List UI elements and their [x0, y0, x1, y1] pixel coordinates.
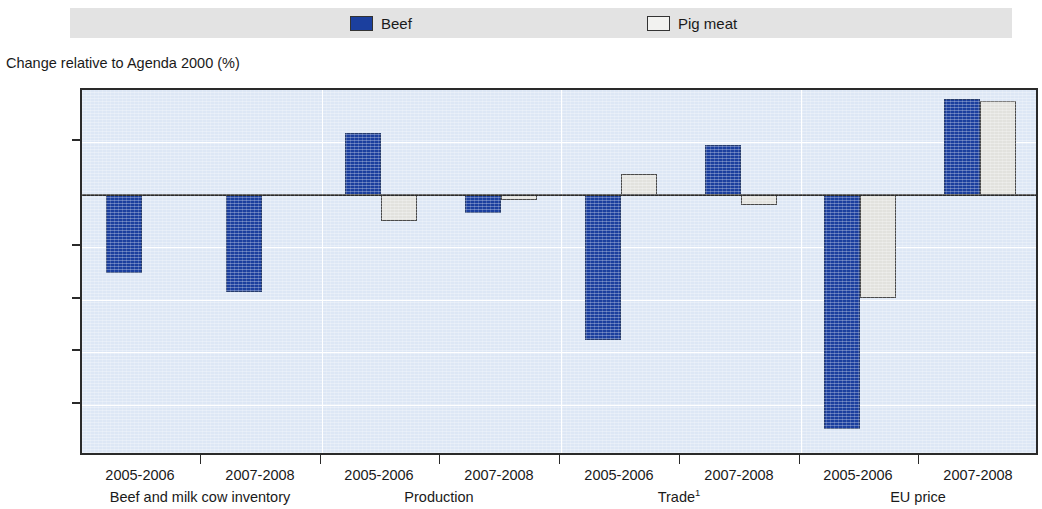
bar-beef-2007-2008-7 [944, 99, 980, 195]
bar-beef-2005-2006-4 [585, 195, 621, 340]
legend-label-pig-meat: Pig meat [678, 16, 737, 31]
x-group-label: EU price [890, 489, 946, 505]
y-tick-mark [72, 139, 81, 141]
gridline [82, 352, 1036, 353]
y-tick-mark [72, 244, 81, 246]
chart-plot-area [80, 88, 1038, 455]
legend-item-beef: Beef [350, 8, 412, 38]
x-category-label: 2007-2008 [704, 467, 773, 483]
x-category-label: 2007-2008 [943, 467, 1012, 483]
chart-legend: Beef Pig meat [70, 8, 1012, 38]
y-tick-mark [72, 297, 81, 299]
x-tick-mark [559, 455, 560, 464]
bar-pig-meat-2005-2006-4 [621, 174, 657, 195]
x-group-label: Beef and milk cow inventory [110, 489, 291, 505]
x-group-label: Trade1 [658, 489, 701, 505]
bar-beef-2007-2008-3 [465, 195, 501, 213]
x-category-label: 2007-2008 [464, 467, 533, 483]
bar-pig-meat-2005-2006-6 [860, 195, 896, 298]
bar-beef-2007-2008-1 [226, 195, 262, 292]
x-tick-mark [320, 455, 321, 464]
legend-swatch-outline-icon [647, 16, 670, 31]
bar-beef-2005-2006-6 [824, 195, 860, 429]
y-tick-mark [72, 402, 81, 404]
x-category-label: 2005-2006 [584, 467, 653, 483]
x-category-label: 2005-2006 [823, 467, 892, 483]
y-axis-caption: Change relative to Agenda 2000 (%) [6, 55, 240, 71]
bar-beef-2005-2006-2 [345, 133, 381, 195]
x-category-label: 2007-2008 [225, 467, 294, 483]
y-tick-mark [72, 349, 81, 351]
gridline [82, 405, 1036, 406]
group-separator [322, 90, 323, 453]
bar-beef-2005-2006-0 [106, 195, 142, 273]
bar-pig-meat-2007-2008-7 [980, 101, 1016, 195]
bar-pig-meat-2007-2008-5 [741, 195, 777, 205]
bar-beef-2007-2008-5 [705, 145, 741, 195]
gridline [82, 142, 1036, 143]
x-tick-mark [918, 455, 919, 464]
x-category-label: 2005-2006 [344, 467, 413, 483]
x-tick-mark [439, 455, 440, 464]
legend-swatch-filled-icon [350, 16, 373, 31]
zero-baseline [82, 194, 1036, 196]
group-separator [561, 90, 562, 453]
group-separator [801, 90, 802, 453]
x-tick-mark [679, 455, 680, 464]
gridline [82, 300, 1036, 301]
x-group-label: Production [404, 489, 473, 505]
legend-item-pig-meat: Pig meat [647, 8, 737, 38]
legend-entries: Beef Pig meat [70, 8, 1012, 38]
x-category-label: 2005-2006 [105, 467, 174, 483]
legend-label-beef: Beef [381, 16, 412, 31]
footnote-marker: 1 [695, 487, 700, 498]
x-tick-mark [799, 455, 800, 464]
bar-pig-meat-2005-2006-2 [381, 195, 417, 221]
x-tick-mark [200, 455, 201, 464]
